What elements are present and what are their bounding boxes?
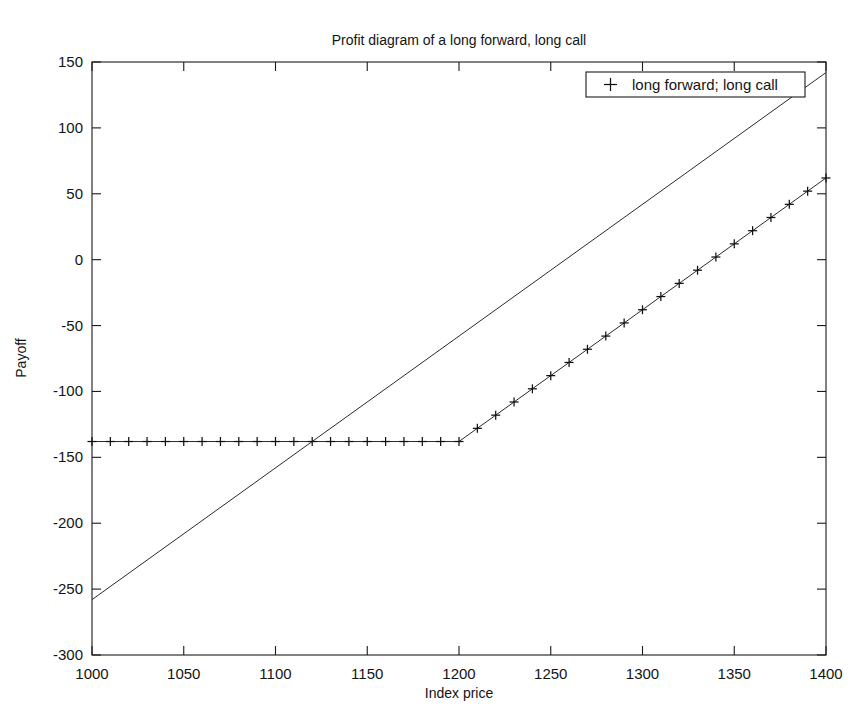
y-tick-label: 50 (66, 185, 83, 202)
plus-marker (730, 239, 739, 248)
plus-marker (88, 437, 97, 446)
y-axis-ticks: 150100500-50-100-150-200-250-300 (53, 53, 826, 663)
profit-diagram-chart: 150100500-50-100-150-200-250-300 1000105… (0, 0, 861, 722)
plus-marker (675, 279, 684, 288)
plus-marker (436, 437, 445, 446)
y-tick-label: -100 (53, 382, 83, 399)
plus-marker (546, 371, 555, 380)
chart-title: Profit diagram of a long forward, long c… (332, 32, 586, 48)
y-tick-label: 100 (58, 119, 83, 136)
y-tick-label: -200 (53, 514, 83, 531)
plus-marker (198, 437, 207, 446)
x-tick-label: 1000 (75, 665, 108, 682)
plus-marker (583, 345, 592, 354)
plot-axes-box (92, 62, 826, 655)
y-tick-label: 0 (75, 251, 83, 268)
plus-marker (638, 305, 647, 314)
y-tick-label: -300 (53, 646, 83, 663)
plus-marker (363, 437, 372, 446)
plus-marker (234, 437, 243, 446)
plus-marker (455, 437, 464, 446)
data-series-group (92, 73, 826, 600)
plus-marker (601, 332, 610, 341)
plus-marker (326, 437, 335, 446)
y-tick-label: 150 (58, 53, 83, 70)
x-tick-label: 1350 (718, 665, 751, 682)
plus-marker (253, 437, 262, 446)
plus-marker (510, 397, 519, 406)
x-tick-label: 1250 (534, 665, 567, 682)
plus-marker (418, 437, 427, 446)
plus-marker (216, 437, 225, 446)
x-tick-label: 1200 (442, 665, 475, 682)
y-tick-label: -50 (61, 317, 83, 334)
plus-marker (766, 213, 775, 222)
plus-marker (344, 437, 353, 446)
plus-marker (822, 173, 831, 182)
y-tick-label: -250 (53, 580, 83, 597)
plus-marker (473, 424, 482, 433)
plus-marker (565, 358, 574, 367)
plus-marker (528, 384, 537, 393)
x-tick-label: 1400 (809, 665, 842, 682)
x-tick-label: 1100 (259, 665, 291, 682)
series-line-long-forward (92, 73, 826, 600)
plus-marker (803, 187, 812, 196)
plus-marker (143, 437, 152, 446)
plus-marker (620, 318, 629, 327)
plus-marker (711, 253, 720, 262)
plus-marker (693, 266, 702, 275)
plus-marker (124, 437, 133, 446)
legend[interactable]: long forward; long call (586, 72, 805, 97)
plus-marker (179, 437, 188, 446)
plus-marker (748, 226, 757, 235)
x-tick-label: 1050 (167, 665, 200, 682)
plus-marker (381, 437, 390, 446)
x-tick-label: 1150 (351, 665, 383, 682)
y-axis-title: Payoff (13, 338, 29, 378)
plus-marker (289, 437, 298, 446)
plus-marker (161, 437, 170, 446)
plus-marker (271, 437, 280, 446)
x-axis-ticks: 100010501100115012001250130013501400 (75, 62, 842, 682)
plus-marker (399, 437, 408, 446)
plus-marker (106, 437, 115, 446)
plus-marker (491, 411, 500, 420)
figure-canvas: 150100500-50-100-150-200-250-300 1000105… (0, 0, 861, 722)
series-line-long-call (92, 178, 826, 442)
x-axis-title: Index price (425, 685, 494, 701)
x-tick-label: 1300 (626, 665, 659, 682)
plus-marker (656, 292, 665, 301)
y-tick-label: -150 (53, 448, 83, 465)
legend-entry-label: long forward; long call (632, 76, 778, 93)
plus-marker (785, 200, 794, 209)
data-markers-group (88, 173, 831, 446)
plus-marker (308, 437, 317, 446)
